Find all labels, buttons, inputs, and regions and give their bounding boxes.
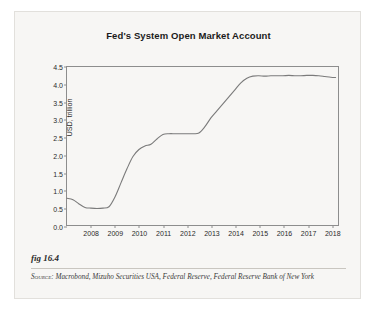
x-tick-label: 2015 [252, 230, 268, 237]
x-tick-mark [260, 225, 261, 228]
x-tick-mark [163, 225, 164, 228]
footer-divider [31, 268, 346, 269]
y-tick-label: 0.0 [53, 224, 63, 231]
x-tick-label: 2010 [132, 230, 148, 237]
x-tick-mark [211, 225, 212, 228]
x-tick-label: 2012 [180, 230, 196, 237]
x-tick-label: 2018 [325, 230, 341, 237]
x-tick-mark [236, 225, 237, 228]
x-tick-label: 2008 [83, 230, 99, 237]
chart-title: Fed's System Open Market Account [15, 30, 362, 41]
x-tick-mark [187, 225, 188, 228]
y-tick-mark [64, 227, 67, 228]
x-tick-mark [332, 225, 333, 228]
y-tick-label: 2.0 [53, 152, 63, 159]
x-tick-label: 2013 [204, 230, 220, 237]
y-tick-label: 4.0 [53, 81, 63, 88]
x-tick-mark [115, 225, 116, 228]
y-tick-label: 3.5 [53, 99, 63, 106]
line-series-canvas [67, 67, 338, 225]
y-tick-label: 1.0 [53, 188, 63, 195]
y-tick-label: 2.5 [53, 135, 63, 142]
y-tick-label: 0.5 [53, 206, 63, 213]
x-tick-mark [284, 225, 285, 228]
series-line-soma [67, 75, 336, 208]
x-tick-label: 2011 [156, 230, 171, 237]
source-text: Macrobond, Mizuho Securities USA, Federa… [55, 273, 314, 281]
x-tick-label: 2017 [301, 230, 317, 237]
x-tick-label: 2014 [228, 230, 244, 237]
y-tick-label: 1.5 [53, 170, 63, 177]
source-prefix: Source: [31, 273, 54, 281]
y-tick-label: 3.0 [53, 117, 63, 124]
figure-number: fig 16.4 [31, 253, 59, 263]
x-tick-mark [91, 225, 92, 228]
plot-area: USD, trillion 0.00.51.01.52.02.53.03.54.… [66, 66, 339, 226]
x-tick-label: 2009 [108, 230, 124, 237]
x-tick-label: 2016 [277, 230, 293, 237]
y-tick-label: 4.5 [53, 64, 63, 71]
figure-card: Fed's System Open Market Account USD, tr… [14, 11, 361, 299]
source-line: Source: Macrobond, Mizuho Securities USA… [31, 273, 314, 281]
x-tick-mark [139, 225, 140, 228]
x-tick-mark [308, 225, 309, 228]
